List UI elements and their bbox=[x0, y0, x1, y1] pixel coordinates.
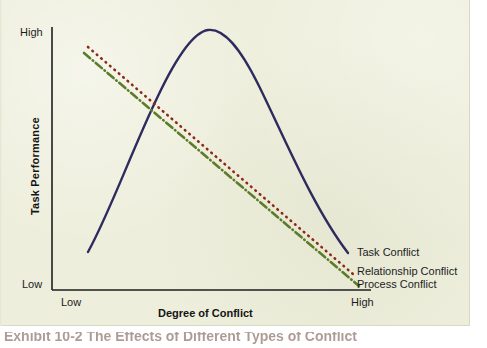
y-axis-title: Task Performance bbox=[30, 117, 41, 215]
series-label-process-conflict: Process Conflict bbox=[357, 279, 436, 290]
series-label-relationship-conflict: Relationship Conflict bbox=[357, 266, 457, 277]
series-line-task-conflict bbox=[88, 30, 348, 253]
figure-caption-strip: Exhibit 10-2 The Effects of Different Ty… bbox=[0, 332, 487, 348]
x-axis-tick-high: High bbox=[351, 297, 374, 308]
x-axis-tick-low: Low bbox=[61, 297, 81, 308]
y-axis-tick-low: Low bbox=[22, 279, 42, 290]
x-axis-title: Degree of Conflict bbox=[158, 308, 253, 319]
series-label-task-conflict: Task Conflict bbox=[357, 247, 419, 258]
figure-panel: High Low Low High Task Performance Degre… bbox=[0, 0, 470, 326]
series-line-relationship-conflict bbox=[88, 47, 353, 274]
y-axis-tick-high: High bbox=[20, 27, 43, 38]
figure-caption: Exhibit 10-2 The Effects of Different Ty… bbox=[4, 332, 357, 344]
